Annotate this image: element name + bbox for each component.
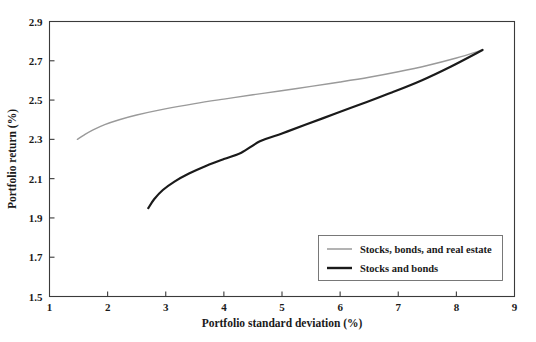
legend-label-stocks-and-bonds: Stocks and bonds xyxy=(360,263,438,274)
x-tick-label: 7 xyxy=(396,301,402,313)
x-axis-title: Portfolio standard deviation (%) xyxy=(202,317,363,330)
y-tick-label: 2.9 xyxy=(29,16,43,28)
y-tick-label: 1.5 xyxy=(29,291,43,303)
y-tick-label: 1.9 xyxy=(29,212,43,224)
x-axis-ticks xyxy=(108,292,457,297)
series-line-stocks-and-bonds xyxy=(148,50,482,208)
y-tick-label: 2.5 xyxy=(29,94,43,106)
y-axis-title: Portfolio return (%) xyxy=(6,109,19,209)
x-tick-label: 3 xyxy=(163,301,169,313)
x-tick-label: 4 xyxy=(221,301,227,313)
y-tick-label: 1.7 xyxy=(29,251,43,263)
y-tick-label: 2.1 xyxy=(29,173,43,185)
y-tick-label: 2.3 xyxy=(29,133,43,145)
x-tick-label: 6 xyxy=(337,301,343,313)
series-line-stocks-bonds-and-real-estate xyxy=(77,50,482,139)
y-axis-tick-labels: 1.51.71.92.12.32.52.72.9 xyxy=(29,16,43,303)
legend-label-stocks-bonds-real-estate: Stocks, bonds, and real estate xyxy=(360,244,492,255)
y-tick-label: 2.7 xyxy=(29,55,43,67)
chart-canvas: 123456789 1.51.71.92.12.32.52.72.9 Portf… xyxy=(0,0,536,342)
x-axis-tick-labels: 123456789 xyxy=(47,301,518,313)
chart-legend: Stocks, bonds, and real estate Stocks an… xyxy=(319,236,503,281)
y-axis-ticks xyxy=(50,61,55,257)
x-tick-label: 2 xyxy=(105,301,111,313)
x-tick-label: 5 xyxy=(279,301,285,313)
x-tick-label: 8 xyxy=(454,301,460,313)
efficient-frontier-chart: 123456789 1.51.71.92.12.32.52.72.9 Portf… xyxy=(0,0,536,342)
x-tick-label: 9 xyxy=(512,301,518,313)
data-series-layer xyxy=(77,50,482,208)
x-tick-label: 1 xyxy=(47,301,53,313)
